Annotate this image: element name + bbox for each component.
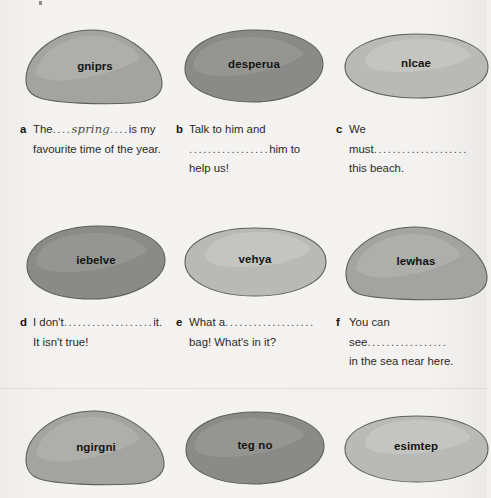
exercise-marker: d [20,313,27,333]
sentence-text: help us! [189,162,229,174]
exercise-b[interactable]: b Talk to him and.................him to… [176,120,326,179]
answer-blank[interactable]: ................... [225,316,315,328]
anagram-word: esimtep [341,440,491,452]
sentence-text: bag! What's in it? [189,336,276,348]
anagram-word: iebelve [22,254,170,266]
anagram-word: teg no [181,439,329,451]
answer-blank[interactable]: .... [53,123,72,135]
anagram-blob-esimtep[interactable]: esimtep [341,412,491,486]
sentence-text: It isn't true! [33,336,88,348]
exercise-a[interactable]: a The....spring....is myfavourite time o… [20,120,170,159]
exercise-marker: f [336,313,340,333]
sentence-text: What a [189,316,225,328]
anagram-word: vehya [181,253,329,265]
exercise-marker: e [176,313,182,333]
anagram-word: desperua [180,58,328,70]
blob-row-3: ngirgni teg no esimtep [0,404,487,496]
exercise-marker: a [20,120,26,140]
sentence-text: is my [129,123,156,135]
exercise-e[interactable]: e What a...................bag! What's i… [176,313,326,352]
exercise-text: We must....................this beach. [349,120,486,179]
anagram-blob-gniprs[interactable]: gniprs [22,24,168,108]
answer-blank[interactable]: ................. [367,336,447,348]
sentence-text: favourite time of the year. [33,143,161,155]
sentence-text: in the sea near here. [349,355,454,367]
handwritten-answer: spring [72,122,110,136]
exercise-text: I don't...................it.It isn't tr… [33,313,170,352]
sentence-text: it. [153,316,162,328]
answer-blank[interactable]: ................... [64,316,154,328]
exercise-text: Talk to him and.................him tohe… [189,120,326,179]
anagram-blob-ngirgni[interactable]: ngirgni [22,406,170,490]
exercise-d[interactable]: d I don't...................it.It isn't … [20,313,170,352]
answer-blank[interactable]: .................... [374,143,468,155]
exercise-text: The....spring....is myfavourite time of … [33,120,170,159]
sentence-text: The [33,123,53,135]
exercise-f[interactable]: f You can see.................in the sea… [336,313,488,372]
anagram-word: nlcae [341,57,491,69]
blob-row-1: gniprs desperua nlcae [0,20,487,112]
exercise-text: You can see.................in the sea n… [349,313,488,372]
anagram-blob-desperua[interactable]: desperua [180,26,328,106]
exercise-row-1: a The....spring....is myfavourite time o… [0,120,487,198]
sentence-text: Talk to him and [189,123,266,135]
exercise-c[interactable]: c We must....................this beach. [336,120,486,179]
anagram-word: lewhas [341,255,491,267]
anagram-blob-vehya[interactable]: vehya [181,224,329,300]
exercise-marker: b [176,120,183,140]
exercise-text: What a...................bag! What's in … [189,313,326,352]
section-divider [0,388,487,389]
anagram-blob-nlcae[interactable]: nlcae [341,30,491,102]
sentence-text: this beach. [349,162,404,174]
anagram-blob-lewhas[interactable]: lewhas [341,222,491,304]
anagram-blob-teg-no[interactable]: teg no [181,408,329,488]
page-edge-artifact [39,1,42,5]
exercise-marker: c [336,120,342,140]
answer-blank[interactable]: .... [110,123,129,135]
anagram-blob-iebelve[interactable]: iebelve [22,222,170,302]
sentence-text: We must [349,123,374,155]
sentence-text: I don't [33,316,64,328]
anagram-word: ngirgni [22,441,170,453]
anagram-word: gniprs [22,60,168,72]
blob-row-2: iebelve vehya lewhas [0,218,487,310]
sentence-text: him to [269,143,300,155]
exercise-row-2: d I don't...................it.It isn't … [0,313,487,373]
answer-blank[interactable]: ................. [189,143,269,155]
